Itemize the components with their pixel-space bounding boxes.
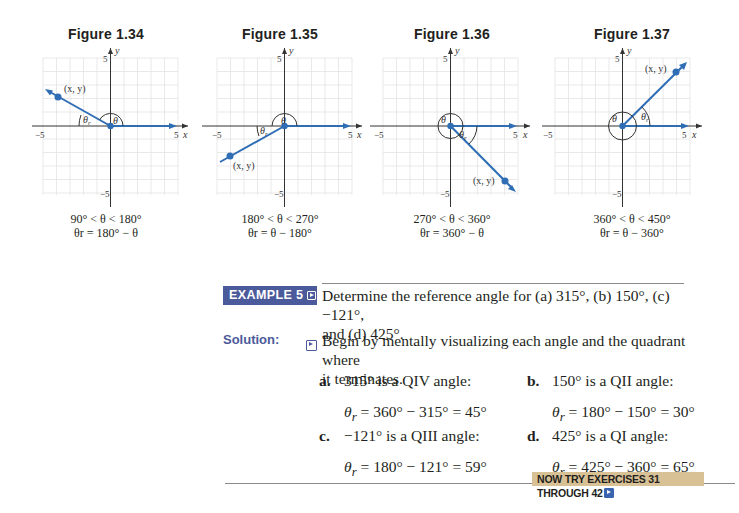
- solution-part-c: c.−121° is a QIII angle: θr = 180° − 121…: [319, 426, 479, 445]
- formula-caption: θr = 180° − θ: [16, 226, 196, 240]
- play-arrow-icon: [307, 291, 316, 300]
- svg-text:x: x: [522, 129, 528, 140]
- svg-text:−5: −5: [35, 130, 45, 140]
- solution-part-b: b.150° is a QII angle: θr = 180° − 150° …: [527, 371, 674, 390]
- svg-text:5: 5: [615, 54, 620, 64]
- part-statement: 315° is a QIV angle:: [344, 372, 471, 389]
- svg-text:−5: −5: [543, 130, 553, 140]
- solution-intro-line1: Begin by mentally visualizing each angle…: [322, 331, 694, 369]
- part-statement: −121° is a QIII angle:: [344, 427, 479, 444]
- figure-title: Figure 1.34: [16, 26, 196, 42]
- svg-text:−5: −5: [274, 189, 284, 199]
- part-statement: 425° is a QI angle:: [552, 427, 668, 444]
- part-letter: c.: [319, 426, 344, 445]
- svg-text:5: 5: [103, 54, 108, 64]
- svg-text:(x, y): (x, y): [645, 63, 667, 75]
- svg-text:y: y: [114, 45, 120, 56]
- figure-plot: θ θr (x, y) −5 5 x 5 y −5: [542, 45, 739, 210]
- range-caption: 180° < θ < 270°: [190, 212, 370, 226]
- svg-text:−5: −5: [612, 189, 622, 199]
- range-caption: 270° < θ < 360°: [362, 212, 542, 226]
- now-try-exercises-link[interactable]: NOW TRY EXERCISES 31 THROUGH 42: [532, 472, 704, 486]
- svg-text:(x, y): (x, y): [473, 175, 495, 187]
- range-caption: 360° < θ < 450°: [542, 212, 722, 226]
- svg-text:5: 5: [348, 130, 353, 140]
- play-arrow-icon: [306, 340, 317, 351]
- part-letter: d.: [527, 426, 552, 445]
- svg-text:θ: θ: [281, 115, 286, 126]
- figure-plot: θ θr (x, y) −5 5 x 5 y −5: [16, 45, 196, 210]
- svg-text:θ: θ: [113, 115, 118, 126]
- solution-part-d: d.425° is a QI angle: θr = 425° − 360° =…: [527, 426, 668, 445]
- svg-text:y: y: [288, 45, 294, 56]
- example-top-rule: [322, 283, 684, 284]
- example-badge: EXAMPLE 5: [223, 286, 317, 305]
- figure-plot: θ θr (x, y) −5 5 x 5 y −5: [190, 45, 370, 210]
- part-statement: 150° is a QII angle:: [552, 372, 674, 389]
- range-caption: 90° < θ < 180°: [16, 212, 196, 226]
- terminal-side: [623, 66, 684, 126]
- figure-plot: θ θr (x, y) −5 5 x 5 y −5: [362, 45, 542, 210]
- figure-1-36: Figure 1.36 θ θr (x, y) −5 5 x 5 y −5 27…: [362, 0, 542, 240]
- svg-text:x: x: [182, 129, 188, 140]
- svg-text:θr: θr: [641, 111, 649, 124]
- solution-marker: [306, 335, 317, 353]
- solution-part-a: a.315° is a QIV angle: θr = 360° − 315° …: [319, 371, 471, 390]
- svg-text:−5: −5: [440, 189, 450, 199]
- part-letter: b.: [527, 371, 552, 390]
- svg-text:5: 5: [513, 130, 518, 140]
- svg-text:θr: θr: [260, 125, 268, 138]
- svg-text:θr: θr: [459, 129, 467, 142]
- svg-text:5: 5: [277, 54, 282, 64]
- svg-text:5: 5: [174, 130, 179, 140]
- svg-text:(x, y): (x, y): [64, 83, 86, 95]
- svg-text:5: 5: [682, 130, 687, 140]
- part-equation: θr = 360° − 315° = 45°: [344, 402, 487, 426]
- figure-title: Figure 1.37: [542, 26, 722, 42]
- svg-text:−5: −5: [100, 189, 110, 199]
- svg-text:θ: θ: [612, 113, 617, 124]
- figure-title: Figure 1.36: [362, 26, 542, 42]
- svg-text:5: 5: [443, 54, 448, 64]
- figure-title: Figure 1.35: [190, 26, 370, 42]
- play-arrow-icon: [604, 488, 614, 498]
- part-letter: a.: [319, 371, 344, 390]
- svg-text:θr: θr: [83, 114, 91, 127]
- example-badge-label: EXAMPLE 5: [229, 288, 303, 302]
- svg-text:θ: θ: [441, 114, 446, 125]
- now-try-label: NOW TRY EXERCISES 31 THROUGH 42: [537, 473, 660, 499]
- formula-caption: θr = θ − 180°: [190, 226, 370, 240]
- svg-text:(x, y): (x, y): [233, 160, 255, 172]
- svg-text:x: x: [691, 129, 697, 140]
- formula-caption: θr = 360° − θ: [362, 226, 542, 240]
- formula-caption: θr = θ − 360°: [542, 226, 722, 240]
- svg-text:y: y: [454, 45, 460, 56]
- example-prompt-line1: Determine the reference angle for (a) 31…: [322, 286, 692, 324]
- figure-1-37: Figure 1.37 θ θr (x, y) −5 5 x 5 y −5 36…: [542, 0, 722, 240]
- svg-text:y: y: [626, 45, 632, 56]
- figure-1-35: Figure 1.35 θ θr (x, y) −5 5 x 5 y −5 18…: [190, 0, 370, 240]
- figure-1-34: Figure 1.34 θ θr (x, y) −5 5 x 5 y −5 90…: [16, 0, 196, 240]
- svg-text:−5: −5: [374, 130, 384, 140]
- svg-text:−5: −5: [212, 130, 222, 140]
- part-equation: θr = 180° − 150° = 30°: [552, 402, 695, 426]
- part-equation: θr = 180° − 121° = 59°: [344, 457, 487, 481]
- solution-label: Solution:: [223, 332, 279, 347]
